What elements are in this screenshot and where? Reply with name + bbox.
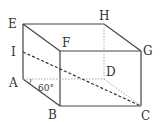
label-E: E [8, 17, 17, 31]
edge-DC [104, 79, 141, 106]
label-B: B [48, 108, 57, 122]
label-D: D [106, 65, 116, 79]
label-A: A [8, 76, 18, 90]
label-F: F [62, 36, 70, 50]
label-H: H [99, 9, 109, 23]
cuboid-diagram: E H F G I A D B C 60° [0, 0, 160, 122]
angle-label: 60° [38, 83, 54, 93]
angle-arc [30, 79, 32, 84]
segment-IC [23, 52, 141, 106]
label-C: C [141, 109, 150, 122]
edge-EF [23, 24, 60, 51]
label-I: I [11, 45, 16, 59]
label-G: G [143, 44, 153, 58]
edge-HG [104, 24, 141, 51]
